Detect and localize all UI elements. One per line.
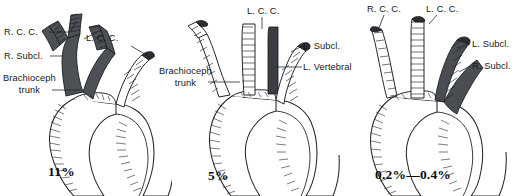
aortic-arch-outer-curve [276,100,339,196]
percentage-right: 0.2%—0.4% [375,167,451,183]
label-right-common-carotid: R. C. C. [367,4,401,15]
label-left-subclavian: L. Subcl. [472,39,509,50]
label-right-subclavian: R. Subcl. [4,51,43,62]
left-subclavian-artery [276,46,306,104]
label-right-common-carotid: R. C. C. [4,27,38,38]
brachiocephalic-trunk-shaded [62,34,83,96]
label-right-subclavian: R. Subcl. [472,61,511,72]
label-left-subclavian: L. Subcl. [303,41,340,52]
panel-middle: L. C. C. Brachioceph trunk L. Subcl. L. … [172,0,345,196]
left-common-carotid-artery [242,24,255,95]
panel-right: R. C. C. L. C. C. L. Subcl. R. Subcl. 0.… [345,0,517,196]
label-brachiocephalic-trunk: Brachioceph trunk [159,66,212,89]
aortic-arch-body [49,98,116,196]
percentage-left: 11% [48,164,75,180]
right-common-carotid-artery [372,30,397,98]
label-left-common-carotid: L. C. C. [86,33,118,44]
aortic-arch-inner-curve [116,114,148,196]
aortic-arch-inner-curve [276,111,310,196]
aortic-arch-inner-curve [437,112,473,196]
panel-left: R. C. C. R. Subcl. Brachioceph trunk L. … [0,0,172,196]
label-left-common-carotid: L. C. C. [247,6,279,17]
label-brachiocephalic-trunk: Brachioceph trunk [3,73,56,96]
left-vertebral-artery-shaded [268,27,278,94]
percentage-middle: 5% [208,168,229,184]
aortic-arch-variants-figure: R. C. C. R. Subcl. Brachioceph trunk L. … [0,0,517,196]
left-subclavian-artery [116,55,149,107]
left-common-carotid-tip [412,17,425,22]
left-common-carotid-artery [411,19,424,98]
aorta-illustration-middle [172,0,345,196]
brachiocephalic-trunk-bifurcation-shaded [83,48,115,99]
label-left-common-carotid: L. C. C. [426,4,458,15]
